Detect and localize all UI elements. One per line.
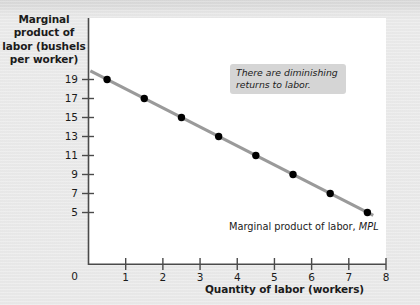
x-tick-label: 8	[376, 271, 396, 283]
y-tick-label: 7	[52, 187, 78, 199]
y-tick-label: 13	[52, 130, 78, 142]
data-point	[103, 76, 110, 83]
x-tick-label: 5	[264, 271, 284, 283]
y-tick-label: 11	[52, 149, 78, 161]
x-tick-label: 3	[190, 271, 210, 283]
series-label-symbol: MPL	[359, 221, 379, 232]
data-point	[141, 95, 148, 102]
annotation-callout: There are diminishing returns to labor.	[230, 64, 346, 94]
data-point	[364, 209, 371, 216]
y-tick-label: 19	[52, 73, 78, 85]
series-label: Marginal product of labor, MPL	[229, 221, 379, 232]
y-axis-title: Marginal product of labor (bushels per w…	[2, 13, 86, 67]
data-point	[252, 152, 259, 159]
y-tick-label: 9	[52, 168, 78, 180]
axis-origin-label: 0	[52, 270, 78, 282]
data-point	[289, 171, 296, 178]
x-tick-label: 2	[153, 271, 173, 283]
y-tick-label: 17	[52, 92, 78, 104]
y-tick-label: 15	[52, 111, 78, 123]
y-tick-label: 5	[52, 206, 78, 218]
x-tick-label: 4	[227, 271, 247, 283]
x-tick-label: 6	[302, 271, 322, 283]
series-label-text: Marginal product of labor,	[229, 221, 359, 232]
x-axis-title: Quantity of labor (workers)	[205, 283, 405, 295]
data-point	[215, 133, 222, 140]
data-point	[178, 114, 185, 121]
x-tick-label: 7	[339, 271, 359, 283]
x-tick-label: 1	[116, 271, 136, 283]
data-point	[327, 190, 334, 197]
